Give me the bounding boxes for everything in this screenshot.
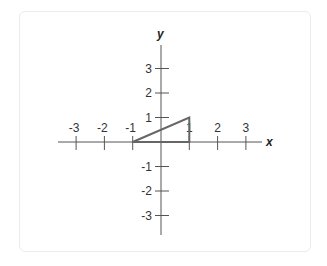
coordinate-plane: x y -3-2-1123 -3-2-1123 <box>0 0 327 266</box>
y-tick-label: -2 <box>141 184 152 198</box>
y-tick-label: -3 <box>141 209 152 223</box>
x-tick-label: -1 <box>125 121 136 135</box>
y-tick-label: 1 <box>145 111 152 125</box>
y-tick-label: 3 <box>145 62 152 76</box>
x-tick-label: -3 <box>69 121 80 135</box>
y-axis-label: y <box>156 27 165 41</box>
x-tick-label: 2 <box>214 121 221 135</box>
x-axis-label: x <box>265 135 274 149</box>
y-tick-label: 2 <box>145 86 152 100</box>
x-ticks: -3-2-1123 <box>69 121 250 150</box>
x-tick-label: 3 <box>243 121 250 135</box>
y-tick-label: -1 <box>141 160 152 174</box>
x-tick-label: -2 <box>97 121 108 135</box>
